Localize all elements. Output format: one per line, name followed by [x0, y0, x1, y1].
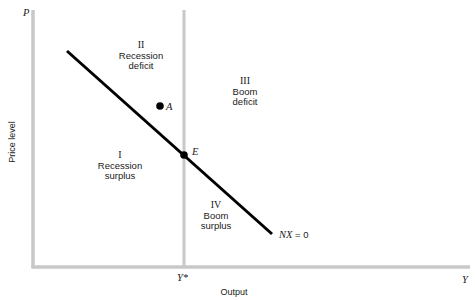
nx-zero-label: NX = 0 — [278, 229, 309, 240]
region-iv-label: IV Boom surplus — [201, 199, 232, 231]
svg-text:III: III — [240, 75, 250, 86]
region-i-label: I Recession surplus — [98, 149, 142, 181]
point-a-marker — [156, 102, 164, 110]
svg-text:deficit: deficit — [233, 96, 258, 107]
y-axis-title: Price level — [7, 121, 17, 163]
point-e-marker — [180, 151, 188, 159]
svg-text:surplus: surplus — [105, 170, 136, 181]
point-a-label: A — [165, 101, 173, 112]
svg-text:deficit: deficit — [129, 60, 154, 71]
region-ii-label: II Recession deficit — [119, 39, 163, 71]
svg-text:surplus: surplus — [201, 220, 232, 231]
nx-zero-diagram: P Y Y* Output Price level A E NX = 0 II … — [0, 0, 475, 301]
region-iii-label: III Boom deficit — [233, 75, 258, 107]
svg-text:II: II — [138, 39, 145, 50]
y-star-label: Y* — [177, 272, 189, 283]
nx-label-italic: NX — [278, 229, 293, 240]
x-axis-title: Output — [220, 287, 248, 297]
nx-label-rest: = 0 — [292, 229, 308, 240]
point-e-label: E — [191, 146, 199, 157]
x-axis-symbol: Y — [462, 274, 469, 285]
y-axis-symbol: P — [22, 7, 30, 18]
svg-text:I: I — [118, 149, 121, 160]
svg-text:IV: IV — [211, 199, 222, 210]
